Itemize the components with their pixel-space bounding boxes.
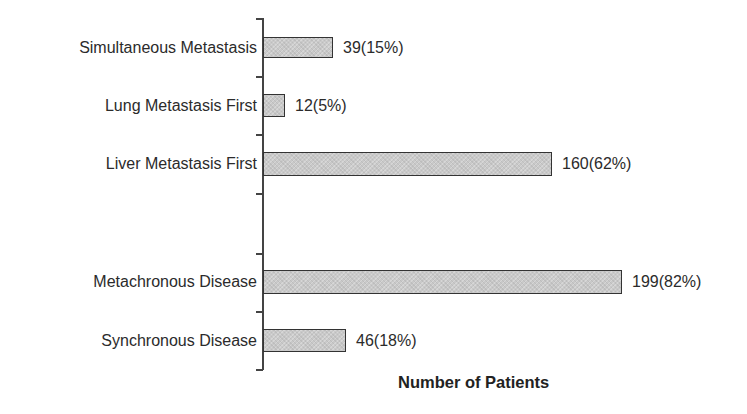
category-label: Lung Metastasis First (105, 96, 257, 116)
y-axis-tick (256, 253, 263, 255)
category-label: Synchronous Disease (101, 331, 257, 351)
category-label: Simultaneous Metastasis (79, 38, 257, 58)
bar (263, 329, 346, 352)
y-axis-tick (256, 369, 263, 371)
data-label: 39(15%) (343, 38, 403, 58)
data-label: 199(82%) (632, 272, 701, 292)
x-axis-title: Number of Patients (398, 373, 549, 392)
bar (263, 152, 552, 176)
category-label: Liver Metastasis First (106, 154, 257, 174)
bar (263, 37, 333, 58)
data-label: 160(62%) (562, 154, 631, 174)
data-label: 46(18%) (356, 331, 416, 351)
horizontal-bar-chart: Simultaneous Metastasis39(15%)Lung Metas… (0, 0, 747, 414)
bar (263, 270, 622, 294)
y-axis-tick (256, 76, 263, 78)
y-axis-tick (256, 134, 263, 136)
y-axis-tick (256, 311, 263, 313)
bar (263, 94, 285, 117)
category-label: Metachronous Disease (93, 272, 257, 292)
y-axis-tick (256, 193, 263, 195)
y-axis-tick (256, 18, 263, 20)
data-label: 12(5%) (295, 96, 347, 116)
